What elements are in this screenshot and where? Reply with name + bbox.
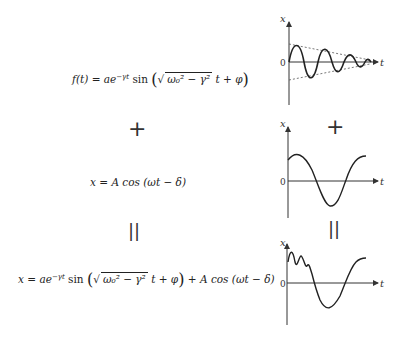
graphs-canvas: x t 0 x t 0 x t 0 (0, 0, 400, 338)
svg-text:x: x (280, 237, 286, 248)
graph1-y-label: x (280, 13, 286, 24)
graph-superposition: x t 0 (280, 237, 385, 325)
graph-forced: x t 0 (280, 118, 385, 218)
svg-text:t: t (380, 176, 385, 187)
svg-text:0: 0 (280, 177, 286, 187)
graph1-origin: 0 (280, 58, 286, 68)
svg-text:x: x (280, 118, 286, 129)
graph1-x-label: t (380, 57, 385, 68)
graph-damped: x t 0 (280, 13, 385, 105)
svg-text:0: 0 (280, 279, 286, 289)
svg-text:t: t (380, 278, 385, 289)
